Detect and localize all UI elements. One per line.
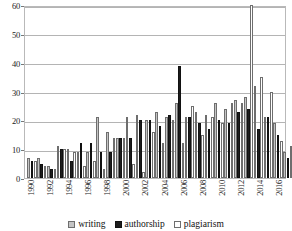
bar-writing-2001 <box>136 115 139 178</box>
bar-authorship-1996 <box>90 143 93 178</box>
bar-writing-2005 <box>175 103 178 178</box>
x-tick-label-1994: 1994 <box>64 180 74 196</box>
bar-writing-2016 <box>283 152 286 178</box>
bar-group-2002 <box>145 7 155 178</box>
bar-authorship-1994 <box>70 161 73 178</box>
chart-container: 0102030405060 19901992199419961998200020… <box>0 0 292 231</box>
bar-authorship-1992 <box>50 169 53 178</box>
bar-group-2008 <box>204 7 214 178</box>
bar-writing-2014 <box>264 117 267 178</box>
y-tick-label-60: 60 <box>12 1 20 11</box>
bar-authorship-2012 <box>247 109 250 178</box>
x-tick-label-2002: 2002 <box>140 180 150 196</box>
x-tick-label-1998: 1998 <box>102 180 112 196</box>
bar-writing-1990 <box>27 158 30 178</box>
legend-item-plagiarism[interactable]: plagiarism <box>174 219 224 229</box>
x-tick-label-2016: 2016 <box>274 180 284 196</box>
x-tick-label-2010: 2010 <box>217 180 227 196</box>
bar-writing-2008 <box>205 115 208 178</box>
bar-group-1993 <box>57 7 67 178</box>
bar-group-2016 <box>283 7 292 178</box>
bar-plagiarism-2016 <box>290 146 292 178</box>
bar-authorship-2002 <box>149 120 152 178</box>
y-tick-label-0: 0 <box>16 174 20 184</box>
bar-authorship-2001 <box>139 120 142 178</box>
legend-item-authorship[interactable]: authorship <box>115 219 165 229</box>
bar-authorship-2013 <box>257 129 260 178</box>
y-tick-label-30: 30 <box>12 88 20 98</box>
bar-authorship-1995 <box>80 143 83 178</box>
bar-writing-2010 <box>224 109 227 178</box>
x-tick-label-2014: 2014 <box>255 180 265 196</box>
bar-authorship-1998 <box>109 152 112 178</box>
bar-group-2013 <box>253 7 263 178</box>
plot-area <box>24 6 286 179</box>
bar-writing-1995 <box>77 152 80 178</box>
bar-group-2009 <box>214 7 224 178</box>
bar-writing-1998 <box>106 132 109 178</box>
x-axis: 1990199219941996199820002002200420062008… <box>24 180 286 210</box>
y-tick-label-40: 40 <box>12 59 20 69</box>
x-tick-label-1992: 1992 <box>45 180 55 196</box>
bar-writing-1991 <box>37 158 40 178</box>
bar-authorship-1991 <box>40 164 43 178</box>
legend-swatch-plagiarism <box>174 221 181 228</box>
bar-group-2004 <box>165 7 175 178</box>
bar-writing-2004 <box>165 117 168 178</box>
bar-writing-2012 <box>244 97 247 178</box>
x-tick-label-1996: 1996 <box>83 180 93 196</box>
bar-writing-2011 <box>234 100 237 178</box>
y-axis: 0102030405060 <box>0 0 24 185</box>
bar-group-2003 <box>155 7 165 178</box>
legend-swatch-writing <box>68 221 75 228</box>
bar-writing-1992 <box>47 166 50 178</box>
bar-writing-2015 <box>273 123 276 178</box>
bar-authorship-2003 <box>159 126 162 178</box>
y-tick-label-50: 50 <box>12 30 20 40</box>
bar-authorship-2011 <box>237 112 240 178</box>
bar-group-2015 <box>273 7 283 178</box>
bar-group-2010 <box>224 7 234 178</box>
y-tick-label-10: 10 <box>12 145 20 155</box>
bar-writing-1996 <box>86 152 89 178</box>
bar-writing-1993 <box>57 146 60 178</box>
bar-group-1998 <box>106 7 116 178</box>
legend-swatch-authorship <box>115 221 122 228</box>
bar-writing-2009 <box>214 103 217 178</box>
bar-group-2007 <box>194 7 204 178</box>
bar-authorship-2010 <box>228 123 231 178</box>
y-tick-label-20: 20 <box>12 116 20 126</box>
bar-group-2005 <box>175 7 185 178</box>
bar-group-2014 <box>263 7 273 178</box>
bar-authorship-2004 <box>168 115 171 178</box>
bar-group-1991 <box>37 7 47 178</box>
legend-item-writing[interactable]: writing <box>68 219 105 229</box>
bar-authorship-2007 <box>198 123 201 178</box>
legend-label-authorship: authorship <box>125 219 165 229</box>
bar-authorship-2000 <box>129 138 132 178</box>
x-tick-label-2006: 2006 <box>179 180 189 196</box>
chart-legend: writingauthorshipplagiarism <box>0 219 292 229</box>
bar-group-1996 <box>86 7 96 178</box>
bar-group-1990 <box>27 7 37 178</box>
bar-authorship-2015 <box>277 135 280 178</box>
bar-authorship-2008 <box>208 129 211 178</box>
bar-group-2012 <box>244 7 254 178</box>
bar-authorship-2009 <box>218 120 221 178</box>
x-tick-label-2008: 2008 <box>198 180 208 196</box>
bar-group-1999 <box>116 7 126 178</box>
bar-writing-2006 <box>185 117 188 178</box>
legend-label-plagiarism: plagiarism <box>184 219 224 229</box>
bar-writing-1997 <box>96 117 99 178</box>
bar-authorship-2006 <box>188 117 191 178</box>
x-tick-label-2004: 2004 <box>160 180 170 196</box>
legend-label-writing: writing <box>78 219 105 229</box>
bar-group-1997 <box>96 7 106 178</box>
bar-group-1992 <box>47 7 57 178</box>
bar-group-1994 <box>66 7 76 178</box>
bar-writing-2007 <box>195 112 198 178</box>
bar-groups <box>25 7 285 178</box>
bar-group-1995 <box>76 7 86 178</box>
x-tick-label-2000: 2000 <box>121 180 131 196</box>
bar-writing-2002 <box>145 120 148 178</box>
